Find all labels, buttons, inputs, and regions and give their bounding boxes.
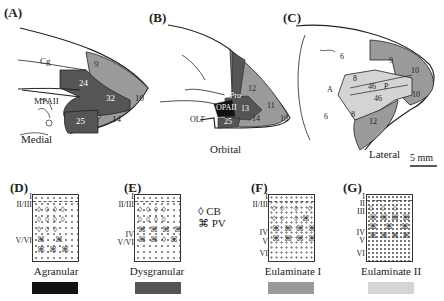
type-label-eulaminate-1: Eulaminate I — [260, 265, 326, 277]
orbital-view-map — [160, 25, 290, 128]
area-10-orbital: 10 — [280, 114, 288, 123]
landmark-cg: Cg — [40, 56, 51, 66]
landmark-a: A — [327, 85, 333, 94]
area-24: 24 — [79, 78, 88, 88]
layer-label-ii-iii: II/III — [104, 201, 134, 209]
area-11: 11 — [267, 101, 275, 110]
area-6-dorsal: 6 — [340, 52, 344, 61]
landmark-olf: OLF — [190, 115, 205, 124]
area-14-orbital: 14 — [252, 114, 260, 123]
view-label-lateral: Lateral — [369, 148, 400, 160]
layer-label-v: V — [238, 238, 268, 246]
area-opaii: OPAII — [216, 103, 237, 112]
area-46-lower: 46 — [374, 94, 382, 103]
area-12-orbital: 12 — [248, 84, 256, 93]
view-label-medial: Medial — [21, 133, 52, 145]
legend-item-cb: ◊ CB — [198, 205, 226, 217]
layer-label-vi: VI — [238, 250, 268, 258]
layer-label-vi: VI — [335, 250, 365, 258]
layer-label-v-vi: V/VI — [104, 239, 134, 247]
laminar-diagram-eulaminate-1: ◊◊ ◊ ◊◊◊ ◊⌘⌘⌘⌘⌘⌘⌘⌘⌘ — [268, 194, 315, 262]
layer-label-iv: IV — [238, 229, 268, 237]
area-8-upper: 8 — [353, 74, 357, 83]
scale-bar-label: 5 mm — [410, 152, 433, 163]
area-12-lateral: 12 — [369, 117, 377, 126]
area-8-lower: 8 — [351, 110, 355, 119]
area-10-lateral-lower: 10 — [412, 90, 420, 99]
type-label-eulaminate-2: Eulaminate II — [356, 265, 426, 277]
legend-pv-label: PV — [212, 217, 226, 229]
area-10-medial: 10 — [135, 93, 144, 103]
legend: ◊ CB ⌘ PV — [198, 205, 226, 229]
landmark-mpaii: MPAII — [34, 96, 59, 106]
legend-item-pv: ⌘ PV — [198, 217, 226, 229]
laminar-diagram-dysgranular: ◊◊◊◊◊◊◊◊⌘⌘⌘⌘⌘⌘◊⌘ — [134, 194, 181, 262]
layer-label-ii-iii: II/III — [238, 201, 268, 209]
legend-cb-label: CB — [206, 205, 221, 217]
area-opro: OPro — [224, 91, 241, 100]
layer-label-ii-iii: II/III — [2, 201, 32, 209]
area-32: 32 — [106, 93, 115, 103]
layer-label-v-vi: V/VI — [2, 237, 32, 245]
view-label-orbital: Orbital — [210, 143, 241, 155]
area-10-lateral-upper: 10 — [411, 66, 419, 75]
landmark-p: P — [384, 82, 388, 91]
area-25-orbital: 25 — [224, 117, 232, 126]
area-6-ventral: 6 — [324, 112, 328, 121]
pv-symbol-icon: ⌘ — [198, 217, 209, 229]
swatch-eulaminate-2 — [368, 282, 414, 294]
layer-label-iii: III — [335, 208, 365, 216]
cb-symbol-icon: ◊ — [198, 205, 203, 217]
swatch-dysgranular — [135, 282, 181, 294]
swatch-eulaminate-1 — [268, 282, 314, 294]
area-25-medial: 25 — [76, 116, 85, 126]
laminar-diagram-agranular: ◊◊◊◊◊◊◊◊◊◊◊⌘ ⌘ ⌘⌘⌘ — [32, 194, 79, 262]
type-label-agranular: Agranular — [26, 265, 86, 277]
swatch-agranular — [32, 282, 78, 294]
area-9-lateral: 9 — [389, 56, 393, 65]
lateral-view-map — [296, 25, 434, 150]
area-46-upper: 46 — [368, 82, 376, 91]
type-label-dysgranular: Dysgranular — [126, 265, 188, 277]
layer-label-v: V — [335, 237, 365, 245]
area-13: 13 — [241, 104, 249, 113]
area-14-medial: 14 — [112, 114, 121, 124]
laminar-diagram-eulaminate-2: ◊ ◊ ◊⌘⌘⌘⌘⌘⌘ ⌘ ⌘⌘⌘⌘⌘ — [366, 194, 413, 262]
area-9-medial: 9 — [94, 59, 99, 69]
